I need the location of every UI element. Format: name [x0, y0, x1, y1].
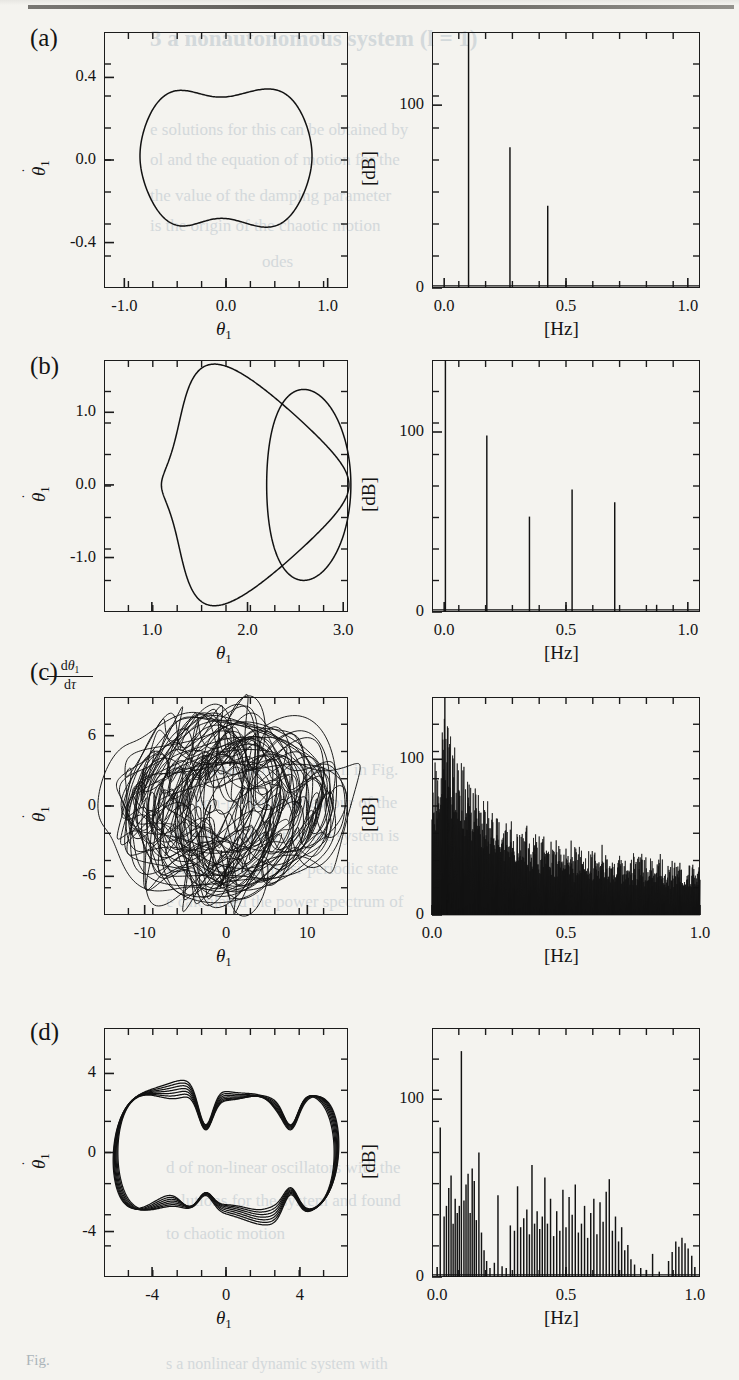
phase-ylabel-3: ˙θ1 [28, 1153, 53, 1169]
spectrum-xlabel-3: [Hz] [544, 1307, 579, 1329]
phase-orbit-1 [267, 389, 351, 580]
phase-1-xtick-1: 2.0 [220, 620, 276, 640]
phase-band-3 [115, 1089, 336, 1218]
phase-ylabel-2: ˙θ1 [28, 806, 53, 822]
phase-3-ytick-2: 4 [42, 1062, 96, 1082]
phase-2-ytick-0: -6 [42, 865, 96, 885]
phase-xlabel-3: θ1 [216, 1307, 232, 1332]
spec-3-xtick-0: 0.0 [409, 1285, 465, 1305]
panel-tag-b: (b) [30, 352, 59, 380]
spec-3-ytick-0: 0 [370, 1266, 424, 1286]
phase-xlabel-0: θ1 [216, 318, 232, 343]
phase-3-xtick-2: 4 [272, 1285, 328, 1305]
spec-2-ytick-1: 100 [370, 748, 424, 768]
phase-xlabel-1: θ1 [216, 642, 232, 667]
spectrum-plot-a-canvas [432, 32, 700, 288]
phase-plot-a [104, 32, 348, 288]
phase-band-0 [118, 1095, 334, 1210]
phase-xlabel-2: θ1 [216, 945, 232, 970]
axis-major-ticks [104, 77, 328, 288]
phase-ylabel-fraction: dθ1dτ [46, 659, 94, 693]
spectrum-peaks [432, 32, 700, 288]
spectrum-plot-a [432, 32, 700, 288]
phase-0-xtick-0: -1.0 [96, 296, 152, 316]
ghost-text-14: s a nonlinear dynamic system with [166, 1355, 388, 1373]
spec-2-xtick-1: 0.5 [538, 923, 594, 943]
phase-3-xtick-1: 0 [198, 1285, 254, 1305]
phase-plot-d [104, 1028, 348, 1277]
spec-0-ytick-0: 0 [370, 277, 424, 297]
spectrum-ylabel-0: [dB] [358, 151, 380, 186]
spectrum-plot-d-canvas [432, 1028, 700, 1277]
phase-0-ytick-0: -0.4 [42, 232, 96, 252]
panel-tag-a: (a) [30, 24, 58, 52]
axis-ticks [104, 1028, 348, 1277]
axis-major-ticks [432, 105, 688, 288]
axis-ticks [104, 360, 348, 612]
phase-1-ytick-2: 1.0 [42, 401, 96, 421]
phase-2-xtick-2: 10 [279, 923, 335, 943]
axis-major-ticks [432, 432, 688, 612]
phase-plot-c [104, 697, 348, 915]
spectrum-ylabel-2: [dB] [358, 797, 380, 832]
panel-tag-d: (d) [30, 1018, 59, 1046]
spec-2-ytick-0: 0 [370, 904, 424, 924]
spectrum-plot-b-canvas [432, 360, 700, 612]
figure-root: 3 a nonautonomous system (l = 1)e soluti… [0, 0, 739, 1380]
spectrum-plot-c [432, 697, 700, 915]
phase-3-ytick-0: -4 [42, 1221, 96, 1241]
axis-major-ticks [104, 412, 343, 612]
spec-2-xtick-2: 1.0 [672, 923, 728, 943]
phase-plot-a-canvas [104, 32, 348, 288]
spectrum-plot-d [432, 1028, 700, 1277]
phase-ylabel-0: ˙θ1 [28, 160, 53, 176]
spec-3-xtick-2: 1.0 [667, 1285, 723, 1305]
phase-2-ytick-2: 6 [42, 725, 96, 745]
spec-2-xtick-0: 0.0 [404, 923, 460, 943]
phase-1-ytick-0: -1.0 [42, 547, 96, 567]
spectrum-xlabel-0: [Hz] [544, 318, 579, 340]
spec-0-xtick-0: 0.0 [416, 296, 472, 316]
phase-3-xtick-0: -4 [124, 1285, 180, 1305]
axis-ticks [432, 360, 700, 612]
spec-0-ytick-1: 100 [370, 94, 424, 114]
phase-band-1 [117, 1094, 335, 1212]
phase-2-xtick-1: 0 [198, 923, 254, 943]
scan-artifact-bar [28, 5, 734, 9]
phase-ylabel-1: ˙θ1 [28, 486, 53, 502]
spectrum-ylabel-1: [dB] [358, 477, 380, 512]
spectrum-plot-c-canvas [432, 697, 700, 915]
spectrum-peaks [432, 1051, 700, 1277]
phase-plot-c-canvas [104, 697, 348, 915]
spec-1-ytick-0: 0 [370, 601, 424, 621]
spec-0-xtick-1: 0.5 [538, 296, 594, 316]
phase-plot-b [104, 360, 348, 612]
spec-1-ytick-1: 100 [370, 421, 424, 441]
spectrum-broadband-area [432, 719, 700, 915]
phase-0-ytick-2: 0.4 [42, 66, 96, 86]
spec-0-xtick-2: 1.0 [660, 296, 716, 316]
spectrum-ylabel-3: [dB] [358, 1144, 380, 1179]
spec-1-xtick-0: 0.0 [416, 620, 472, 640]
spectrum-xlabel-1: [Hz] [544, 642, 579, 664]
phase-0-xtick-1: 0.0 [198, 296, 254, 316]
phase-plot-d-canvas [104, 1028, 348, 1277]
spectrum-xlabel-2: [Hz] [544, 945, 579, 967]
spec-1-xtick-1: 0.5 [538, 620, 594, 640]
spec-3-ytick-1: 100 [370, 1088, 424, 1108]
phase-orbit [140, 89, 312, 227]
phase-plot-b-canvas [104, 360, 348, 612]
axis-ticks [432, 32, 700, 288]
phase-2-xtick-0: -10 [117, 923, 173, 943]
phase-1-xtick-0: 1.0 [124, 620, 180, 640]
phase-orbit-0 [161, 364, 349, 606]
phase-band-2 [116, 1091, 336, 1214]
phase-0-xtick-2: 1.0 [300, 296, 356, 316]
spectrum-peaks [432, 360, 700, 612]
spec-1-xtick-2: 1.0 [660, 620, 716, 640]
phase-1-xtick-2: 3.0 [315, 620, 371, 640]
spectrum-plot-b [432, 360, 700, 612]
spec-3-xtick-1: 0.5 [538, 1285, 594, 1305]
figure-caption: Fig. [26, 1352, 50, 1369]
